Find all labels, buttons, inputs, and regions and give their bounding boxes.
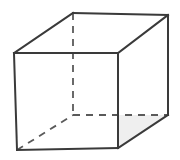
figure-container bbox=[0, 0, 180, 160]
cube-diagram bbox=[0, 0, 180, 160]
front-face bbox=[14, 53, 118, 150]
